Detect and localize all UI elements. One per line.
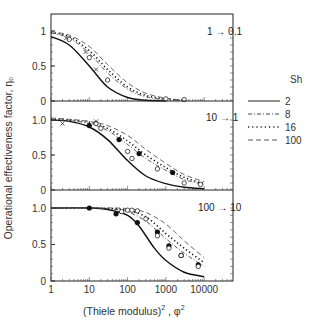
y-tick-label: 0 [40,96,46,107]
series-line-sh-2 [51,208,204,277]
x-axis-label-sep: , φ [165,305,181,317]
legend-item-sh16: 16 [248,122,318,134]
x-tick-label: 100 [119,284,136,295]
x-axis-label: (Thiele modulus)2 , φ2 [83,304,185,317]
legend-item-sh8: 8 [248,109,318,121]
panel-1: 00.511 → 0.1 [32,26,242,107]
series-line-sh-2 [51,37,166,101]
y-tick-label: 0.5 [32,150,46,161]
dotted-line-icon [248,124,282,130]
open-circle-marker [179,253,183,257]
open-circle-marker [164,97,168,101]
open-circle-marker [119,209,123,213]
dash-dot-line-icon [248,111,282,117]
filled-circle-marker [87,205,92,210]
filled-circle-marker [117,137,122,142]
series-line-sh-8 [51,33,184,100]
open-circle-marker [125,149,129,153]
y-tick-label: 0.5 [32,239,46,250]
panel-3: 00.51.0100 → 10 [32,190,242,287]
open-circle-marker [155,167,159,171]
x-tick-label: 10000 [190,284,218,295]
filled-circle-marker [113,211,118,216]
y-tick-label: 0 [40,276,46,287]
open-circle-marker [87,55,91,59]
open-circle-marker [130,156,134,160]
open-circle-marker [130,208,134,212]
series-line-sh-100 [51,32,184,101]
filled-circle-marker [87,123,92,128]
y-tick-label: 0.5 [32,61,46,72]
open-circle-marker [196,264,200,268]
filled-circle-marker [170,170,175,175]
filled-circle-marker [135,220,140,225]
open-circle-marker [125,208,129,212]
solid-line-icon [248,98,282,104]
open-circle-marker [182,181,186,185]
open-circle-marker [198,182,202,186]
chart-canvas: 00.511 → 0.100.51.010 → 100.51.0100 → 10… [0,0,319,329]
x-axis-label-sup-phi: 2 [181,304,185,311]
x-tick-label: 10 [84,284,96,295]
y-tick-label: 1.0 [32,115,46,126]
cross-marker [61,122,65,126]
panel-annotation: 1 → 0.1 [207,26,242,37]
open-circle-marker [99,126,103,130]
open-circle-marker [167,246,171,250]
y-tick-label: 0 [40,185,46,196]
panel-annotation: 10 → 1 [206,112,239,123]
legend-item-sh100: 100 [248,135,318,147]
y-tick-label: 1.0 [32,203,46,214]
filled-circle-marker [137,151,142,156]
x-tick-label: 1000 [155,284,178,295]
y-tick-label: 1 [40,26,46,37]
open-circle-marker [155,234,159,238]
series-line-sh-16 [51,32,184,100]
cross-marker [94,68,98,72]
dashed-line-icon [248,137,282,143]
legend-title: Sh [290,74,302,85]
open-circle-marker [135,209,139,213]
panel-2: 00.51.010 → 1 [32,101,239,196]
open-circle-marker [144,217,148,221]
y-axis-label: Operational effectiveness factor, η₀ [2,77,14,240]
x-tick-label: 1 [48,284,54,295]
x-axis-label-main: (Thiele modulus) [83,305,161,317]
panel-annotation: 100 → 10 [198,202,242,213]
open-circle-marker [105,78,109,82]
legend-item-sh2: 2 [248,96,318,108]
